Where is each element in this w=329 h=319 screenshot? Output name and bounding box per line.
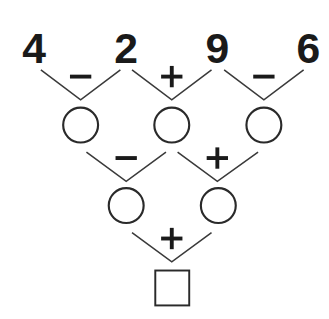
answer-circle-2-2[interactable] <box>201 188 236 223</box>
number-1: 4 <box>22 24 46 72</box>
plus-icon <box>161 66 182 87</box>
answer-circle-1-1[interactable] <box>63 108 98 143</box>
connector-1-3 <box>224 70 304 100</box>
number-4: 6 <box>297 24 321 72</box>
plus-icon <box>161 228 182 249</box>
answer-circle-2-1[interactable] <box>109 188 144 223</box>
plus-icon <box>207 147 228 168</box>
result-box[interactable] <box>155 271 189 306</box>
number-3: 9 <box>205 24 229 72</box>
number-2: 2 <box>114 24 138 72</box>
answer-circle-1-2[interactable] <box>154 108 189 143</box>
answer-circle-1-3[interactable] <box>246 108 281 143</box>
connector-1-1 <box>41 70 121 100</box>
operation-tree-diagram: 4 2 9 6 <box>0 0 329 319</box>
